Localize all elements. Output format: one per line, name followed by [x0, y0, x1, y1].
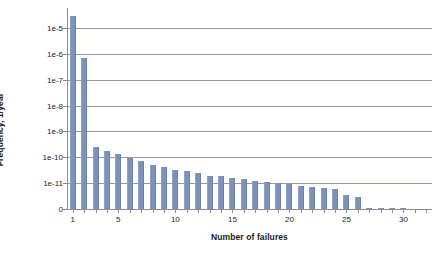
bar [207, 176, 213, 209]
gridline [67, 54, 432, 55]
bar [115, 154, 121, 209]
bar [161, 167, 167, 209]
x-axis-tick-mark [289, 209, 290, 213]
bar [150, 165, 156, 209]
x-axis-tick-mark [210, 209, 211, 213]
bar [138, 161, 144, 209]
bar [355, 197, 361, 209]
x-axis-tick-mark [335, 209, 336, 213]
bar [229, 178, 235, 209]
x-axis-tick-mark [324, 209, 325, 213]
bar [70, 16, 76, 209]
x-axis-tick-mark [198, 209, 199, 213]
x-axis-tick-mark [415, 209, 416, 213]
y-axis-tick-label: 0 [22, 205, 63, 214]
plot-area: 151015202530 [67, 8, 432, 209]
bar [321, 188, 327, 209]
x-axis-tick-mark [175, 209, 176, 213]
x-axis-tick-mark [96, 209, 97, 213]
y-axis-tick-label: 1e-10 [22, 153, 63, 162]
bar [81, 58, 87, 209]
x-axis-tick-mark [278, 209, 279, 213]
bar [252, 181, 258, 209]
x-axis-tick-label: 30 [399, 215, 408, 224]
y-axis-tick-label: 1e-8 [22, 101, 63, 110]
x-axis-tick-mark [118, 209, 119, 213]
x-axis-tick-mark [267, 209, 268, 213]
x-axis-tick-label: 20 [285, 215, 294, 224]
x-axis-tick-mark [187, 209, 188, 213]
bar [298, 186, 304, 209]
x-axis-tick-label: 1 [70, 215, 74, 224]
bar [275, 183, 281, 209]
chart-figure: Frequency, 1/year 1e-51e-61e-71e-81e-91e… [0, 0, 444, 259]
gridline [67, 28, 432, 29]
x-axis-title: Number of failures [67, 232, 432, 242]
gridline [67, 157, 432, 158]
bar [241, 179, 247, 209]
x-axis-tick-mark [369, 209, 370, 213]
x-axis-tick-mark [346, 209, 347, 213]
x-axis-tick-label: 25 [342, 215, 351, 224]
bar [195, 173, 201, 209]
bar [332, 189, 338, 209]
gridline [67, 106, 432, 107]
x-axis-tick-label: 15 [228, 215, 237, 224]
x-axis-tick-label: 5 [116, 215, 120, 224]
x-axis-tick-mark [392, 209, 393, 213]
x-axis-tick-mark [130, 209, 131, 213]
x-axis-tick-mark [301, 209, 302, 213]
x-axis-tick-mark [73, 209, 74, 213]
x-axis-tick-mark [232, 209, 233, 213]
bar [93, 147, 99, 209]
y-axis-line [67, 8, 68, 209]
x-axis-tick-mark [312, 209, 313, 213]
x-axis-tick-mark [153, 209, 154, 213]
x-axis-tick-mark [164, 209, 165, 213]
x-axis-line [67, 209, 432, 210]
bar [127, 158, 133, 209]
bar [184, 171, 190, 209]
x-axis-tick-mark [107, 209, 108, 213]
x-axis-tick-mark [403, 209, 404, 213]
x-axis-tick-mark [358, 209, 359, 213]
x-axis-tick-mark [221, 209, 222, 213]
bar [309, 187, 315, 209]
bar [104, 151, 110, 209]
gridline [67, 183, 432, 184]
x-axis-tick-mark [244, 209, 245, 213]
gridline [67, 131, 432, 132]
y-axis-tick-label: 1e-6 [22, 49, 63, 58]
bar [172, 170, 178, 209]
x-axis-tick-mark [84, 209, 85, 213]
x-axis-tick-label: 10 [171, 215, 180, 224]
x-axis-tick-mark [255, 209, 256, 213]
x-axis-tick-mark [141, 209, 142, 213]
x-axis-tick-mark [426, 209, 427, 213]
x-axis-tick-mark [381, 209, 382, 213]
bar [264, 182, 270, 209]
y-axis-tick-label: 1e-5 [22, 24, 63, 33]
y-axis-tick-label: 1e-11 [22, 179, 63, 188]
gridline [67, 80, 432, 81]
y-axis-tick-label: 1e-9 [22, 127, 63, 136]
y-axis-tick-label: 1e-7 [22, 75, 63, 84]
bar [286, 184, 292, 209]
bar [343, 195, 349, 209]
bar [218, 176, 224, 209]
